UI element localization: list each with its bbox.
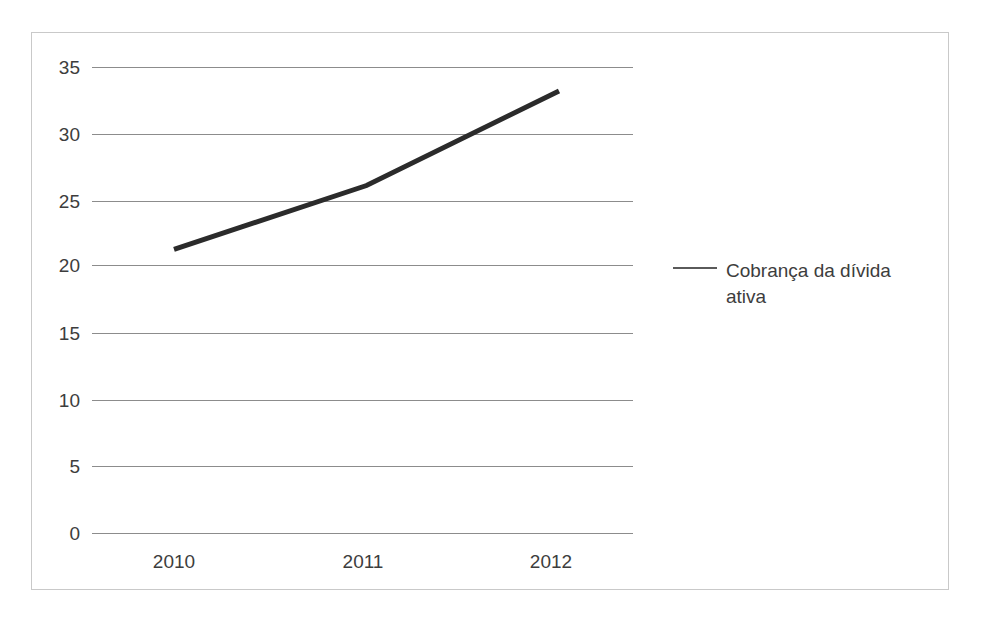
legend-item: Cobrança da dívida ativa xyxy=(673,258,935,310)
legend-line-swatch-icon xyxy=(673,258,717,277)
series-line-chart xyxy=(32,33,950,591)
legend-item-label: Cobrança da dívida ativa xyxy=(726,258,935,310)
series-line-cobranca-da-divida-ativa xyxy=(174,91,559,249)
chart-figure: 35 30 25 20 15 10 5 0 2010 2011 2012 Cob… xyxy=(31,32,949,590)
plot-area: 35 30 25 20 15 10 5 0 2010 2011 2012 xyxy=(32,33,950,591)
legend: Cobrança da dívida ativa xyxy=(673,258,935,310)
